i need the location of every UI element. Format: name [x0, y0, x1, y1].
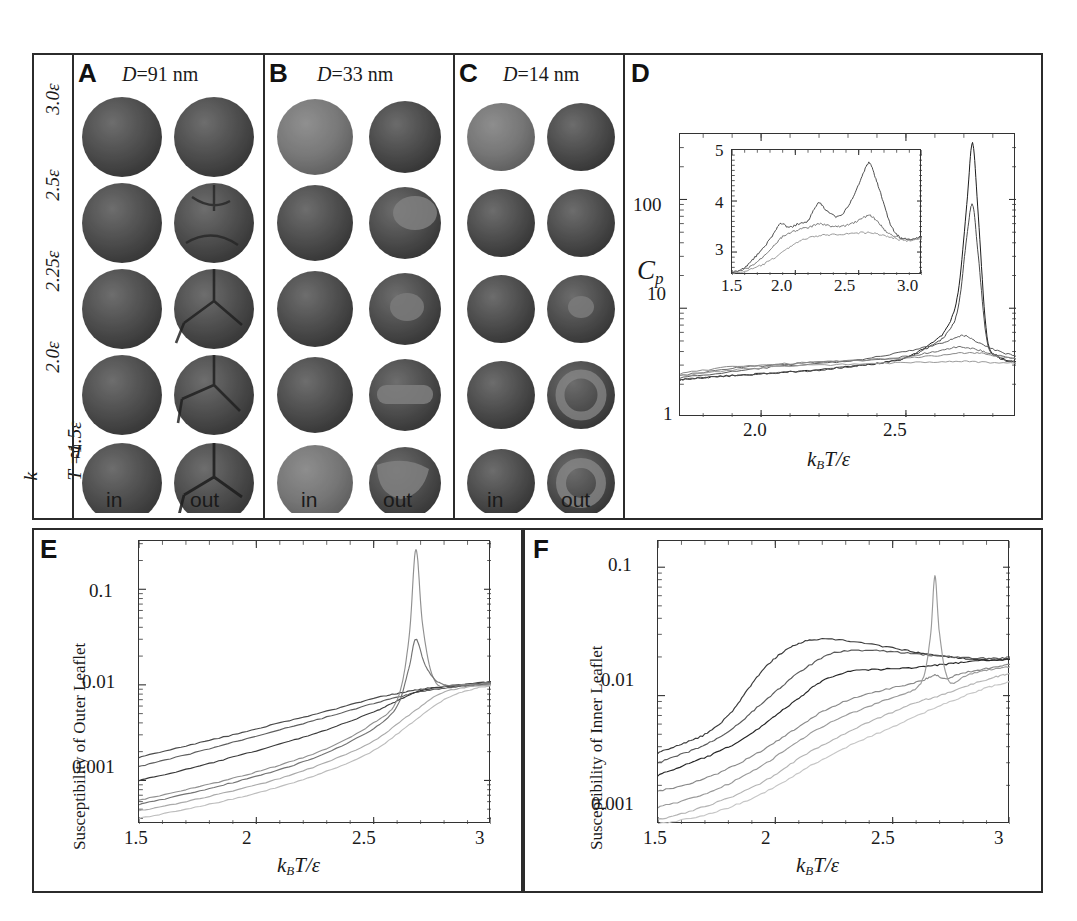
panel-D-inset-ytick-5: 5: [715, 141, 724, 161]
panel-E-ytick-0.001: 0.001: [72, 756, 115, 778]
row-label-text: 2.25ε: [42, 251, 64, 292]
panel-F-ytick-0.001: 0.001: [591, 793, 634, 815]
row-label-1.5: kBT =1.5ε: [34, 401, 72, 501]
column-label-in-A: in: [106, 488, 122, 512]
panel-A-title: D=91 nm: [122, 63, 198, 86]
panel-D-inset-curves: [732, 150, 922, 275]
panel-label-E: E: [40, 534, 57, 565]
panel-E-box: E Susceptibility of Outer Leaflet 0.1 0.…: [32, 528, 523, 893]
panel-D-xlabel: kBT/ε: [807, 447, 850, 473]
panel-label-F: F: [533, 534, 548, 565]
row-label-3.0: 3.0ε: [34, 57, 72, 141]
panel-E-ytick-0.01: 0.01: [82, 671, 115, 693]
row-label-2.0: 2.0ε: [34, 315, 72, 399]
panel-F-xtick-2: 2: [761, 827, 771, 849]
panel-F-xtick-2.5: 2.5: [871, 827, 895, 849]
panel-label-D: D: [631, 58, 649, 89]
panel-F-xtick-1.5: 1.5: [643, 827, 667, 849]
panel-B-vesicles: [265, 93, 453, 513]
panel-A: A D=91 nm: [74, 55, 264, 518]
panel-E-xlabel: kBT/ε: [277, 853, 320, 879]
panel-D-inset-xtick-1.5: 1.5: [721, 276, 742, 296]
panel-F-ytick-0.1: 0.1: [608, 554, 632, 576]
row-label-2.25: 2.25ε: [34, 229, 72, 313]
column-label-in-B: in: [301, 488, 317, 512]
panel-C: C D=14 nm in out: [455, 55, 623, 518]
panel-D-ytick-1: 1: [663, 403, 673, 425]
panel-C-vesicles: [455, 93, 623, 513]
panel-C-title: D=14 nm: [503, 63, 579, 86]
panel-B-title: D=33 nm: [317, 63, 393, 86]
column-label-in-C: in: [487, 488, 503, 512]
panel-B: B D=33 nm: [265, 55, 453, 518]
panel-D: D Cp 100 10 1 2.0 2.5 kBT/ε 5 4 3 1.5 2.…: [625, 55, 1041, 518]
panel-D-inset-xtick-2.0: 2.0: [771, 276, 792, 296]
panel-label-B: B: [269, 58, 287, 89]
panel-F-xtick-3: 3: [994, 827, 1004, 849]
panel-label-A: A: [78, 58, 96, 89]
row-label-2.5: 2.5ε: [34, 143, 72, 227]
top-panel-group: 3.0ε 2.5ε 2.25ε 2.0ε kBT =1.5ε A D=91 nm: [32, 53, 1043, 520]
panel-F-curves: [658, 541, 1010, 824]
panel-F-xlabel: kBT/ε: [796, 853, 839, 879]
panel-D-inset-ytick-4: 4: [715, 193, 724, 213]
panel-D-ytick-10: 10: [647, 283, 666, 305]
panel-A-vesicles: [74, 93, 264, 513]
panel-D-inset-xtick-3.0: 3.0: [897, 276, 918, 296]
row-label-text: 3.0ε: [42, 83, 64, 114]
panel-D-inset-xtick-2.5: 2.5: [834, 276, 855, 296]
panel-D-ytick-100: 100: [633, 194, 662, 216]
panel-D-inset-frame: [731, 149, 921, 274]
panel-E-ytick-0.1: 0.1: [89, 580, 113, 602]
panel-E-xtick-2.5: 2.5: [352, 827, 376, 849]
panel-D-xtick-2.5: 2.5: [883, 419, 907, 441]
panel-E-xtick-2: 2: [242, 827, 252, 849]
panel-D-xtick-2.0: 2.0: [743, 419, 767, 441]
panel-D-inset-ytick-3: 3: [715, 240, 724, 260]
column-label-out-C: out: [561, 488, 590, 512]
panel-F-plot-frame: [657, 540, 1009, 823]
panel-E-xtick-1.5: 1.5: [124, 827, 148, 849]
temperature-row-labels: 3.0ε 2.5ε 2.25ε 2.0ε kBT =1.5ε: [34, 55, 72, 518]
panel-label-C: C: [459, 58, 477, 89]
figure-root: 3.0ε 2.5ε 2.25ε 2.0ε kBT =1.5ε A D=91 nm: [0, 0, 1077, 921]
panel-F-box: F Susceptibility of Inner Leaflet 0.1 0.…: [523, 528, 1043, 893]
row-label-text: 2.5ε: [42, 169, 64, 200]
panel-F-ytick-0.01: 0.01: [601, 669, 634, 691]
row-label-text: 2.0ε: [42, 341, 64, 372]
column-label-out-B: out: [383, 488, 412, 512]
panel-E-xtick-3: 3: [475, 827, 485, 849]
panel-E-curves: [139, 541, 491, 824]
panel-E-plot-frame: [138, 540, 490, 823]
column-label-out-A: out: [190, 488, 219, 512]
